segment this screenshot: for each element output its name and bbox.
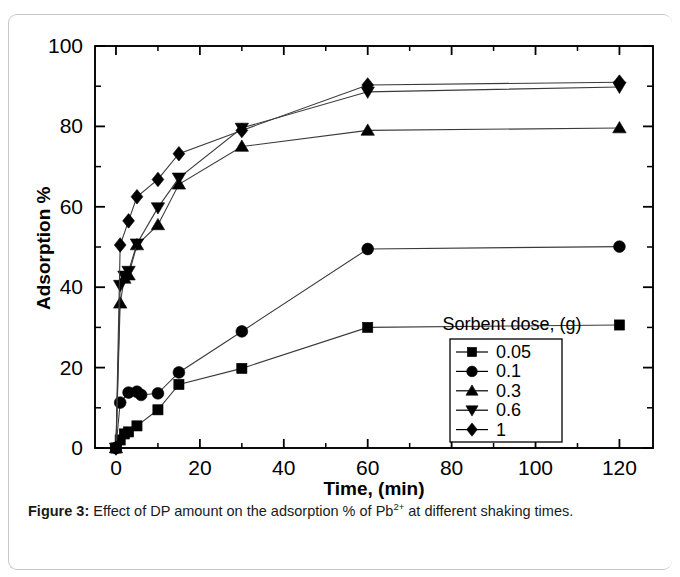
legend-title: Sorbent dose, (g) [442, 314, 581, 334]
data-point [131, 189, 143, 204]
x-axis-tick-labels: 020406080100120 [110, 456, 637, 479]
data-point [362, 243, 374, 255]
data-point [151, 218, 164, 229]
data-point [135, 389, 147, 401]
data-point [236, 326, 248, 338]
data-point [173, 367, 185, 379]
x-axis-title: Time, (min) [324, 478, 425, 499]
legend-marker-square [467, 347, 476, 356]
data-point [152, 387, 164, 399]
data-point [363, 322, 373, 332]
legend-label: 0.1 [496, 361, 521, 381]
data-point [172, 173, 185, 184]
data-point [174, 379, 184, 389]
figure-caption-superscript: 2+ [393, 501, 404, 512]
figure-caption-text-before: Effect of DP amount on the adsorption % … [89, 503, 393, 519]
legend-marker-circle [467, 366, 478, 377]
x-tick-label: 40 [272, 456, 295, 479]
legend-label: 0.6 [496, 400, 521, 420]
chart-plot-area: Adsorption % 020406080100120 02040608010… [0, 0, 680, 500]
data-point [132, 421, 142, 431]
y-tick-label: 0 [71, 436, 83, 459]
y-tick-label: 100 [48, 34, 83, 57]
data-point [151, 203, 164, 214]
adsorption-vs-time-chart: Adsorption % 020406080100120 02040608010… [0, 0, 680, 500]
data-point [123, 214, 135, 229]
data-point [614, 320, 624, 330]
data-point [361, 124, 374, 135]
figure-caption-text-after: at different shaking times. [404, 503, 573, 519]
legend-label: 1 [496, 420, 506, 440]
data-point [114, 397, 126, 409]
x-tick-label: 120 [602, 456, 637, 479]
y-tick-label: 20 [60, 356, 83, 379]
data-point [614, 241, 626, 253]
legend-label: 0.05 [496, 342, 531, 362]
data-point [613, 121, 626, 132]
y-tick-label: 60 [60, 195, 83, 218]
data-point [114, 238, 126, 253]
figure-caption-label: Figure 3: [28, 503, 89, 519]
figure-panel: Adsorption % 020406080100120 02040608010… [0, 0, 680, 577]
x-tick-label: 100 [518, 456, 553, 479]
x-tick-label: 0 [110, 456, 122, 479]
data-point [153, 405, 163, 415]
x-tick-label: 20 [188, 456, 211, 479]
chart-legend: Sorbent dose, (g)0.050.10.30.61 [442, 314, 581, 442]
y-tick-label: 80 [60, 114, 83, 137]
x-tick-label: 80 [440, 456, 463, 479]
y-axis-title: Adsorption % [33, 186, 54, 310]
legend-label: 0.3 [496, 381, 521, 401]
x-tick-label: 60 [356, 456, 379, 479]
data-point [237, 363, 247, 373]
figure-caption: Figure 3: Effect of DP amount on the ads… [28, 500, 648, 521]
y-tick-label: 40 [60, 275, 83, 298]
